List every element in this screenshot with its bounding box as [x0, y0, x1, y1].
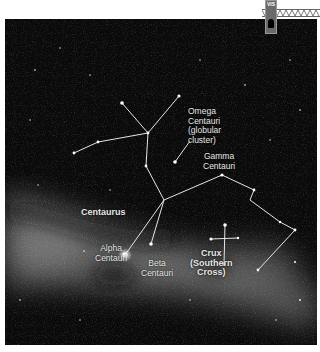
label-omega-centauri: Omega Centauri (globular cluster) [188, 107, 221, 145]
omega-centauri-star [173, 160, 177, 164]
beta-centauri-star [149, 242, 153, 246]
slider-handle-icon [268, 19, 274, 28]
label-alpha-centauri: Alpha Centauri [95, 244, 127, 263]
star-field-photo: Centaurus Omega Centauri (globular clust… [5, 19, 317, 345]
constellation-chart [5, 19, 317, 345]
label-gamma-centauri: Gamma Centauri [203, 152, 235, 171]
label-beta-centauri: Beta Centauri [141, 259, 173, 278]
label-centaurus: Centaurus [81, 208, 126, 218]
label-crux: Crux (Southern Cross) [190, 249, 233, 278]
slider-thumb[interactable]: VIS [265, 0, 277, 34]
slider-thumb-label: VIS [266, 1, 276, 7]
gamma-centauri-star [220, 173, 223, 176]
